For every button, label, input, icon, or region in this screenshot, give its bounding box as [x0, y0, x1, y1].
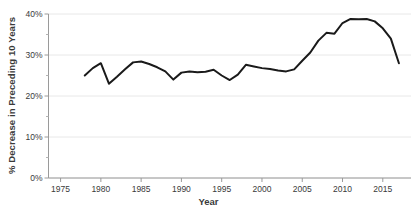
y-tick-label-40: 40%: [5, 9, 43, 19]
y-tick-label-20: 20%: [5, 91, 43, 101]
x-tick-label-2000: 2000: [242, 184, 282, 194]
y-tick-label-30: 30%: [5, 50, 43, 60]
x-tick-label-1985: 1985: [121, 184, 161, 194]
x-tick-label-2005: 2005: [282, 184, 322, 194]
data-series-line: [85, 19, 399, 84]
y-tick-label-10: 10%: [5, 132, 43, 142]
x-tick-label-1975: 1975: [41, 184, 81, 194]
x-axis-title: Year: [0, 196, 417, 207]
gridlines-group: [49, 14, 412, 178]
x-tick-label-1990: 1990: [161, 184, 201, 194]
x-tick-label-1980: 1980: [81, 184, 121, 194]
tickmarks-group: [45, 14, 383, 182]
x-tick-label-2010: 2010: [323, 184, 363, 194]
y-tick-label-0: 0%: [5, 173, 43, 183]
x-tick-label-2015: 2015: [363, 184, 403, 194]
chart-container: % Decrease in Preceding 10 Years Year 0%…: [0, 0, 417, 218]
x-tick-label-1995: 1995: [202, 184, 242, 194]
